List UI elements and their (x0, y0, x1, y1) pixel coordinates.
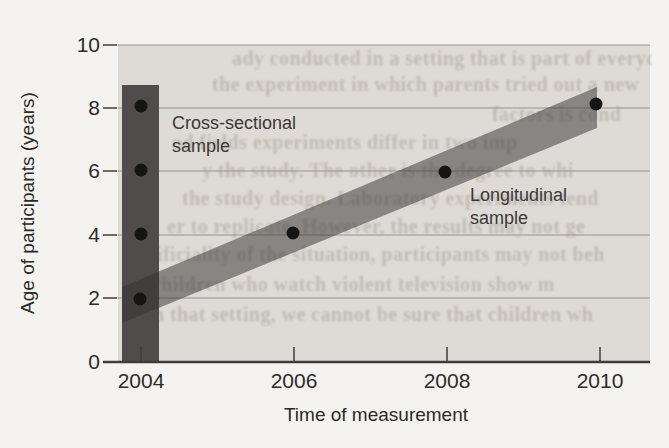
cross-sectional-vs-longitudinal-chart: ady conducted in a setting that is part … (0, 0, 669, 448)
y-tick-label-8: 8 (56, 95, 100, 121)
x-axis-ticks (141, 347, 600, 362)
y-axis-ticks (103, 45, 117, 298)
x-axis-title: Time of measurement (226, 404, 526, 426)
y-tick-label-4: 4 (56, 222, 100, 248)
data-point-2006-age4 (287, 227, 300, 240)
x-tick-label-2006: 2006 (252, 368, 336, 394)
cross-sectional-label-line1: Cross-sectional (172, 112, 296, 135)
data-point-2004-age2 (134, 293, 147, 306)
y-tick-label-6: 6 (56, 158, 100, 184)
data-point-2004-age8 (135, 100, 148, 113)
y-tick-label-2: 2 (56, 285, 100, 311)
x-tick-label-2010: 2010 (558, 368, 642, 394)
y-tick-label-0: 0 (56, 349, 100, 375)
longitudinal-label: Longitudinal sample (470, 184, 567, 230)
longitudinal-label-line1: Longitudinal (470, 184, 567, 207)
x-tick-label-2008: 2008 (405, 368, 489, 394)
data-point-2010-age8 (590, 98, 603, 111)
data-point-2008-age6 (439, 166, 452, 179)
x-tick-label-2004: 2004 (99, 368, 183, 394)
y-axis-title: Age of participants (years) (17, 92, 39, 314)
data-point-2004-age4 (135, 228, 148, 241)
data-point-2004-age6 (135, 164, 148, 177)
cross-sectional-label-line2: sample (172, 135, 296, 158)
longitudinal-label-line2: sample (470, 207, 567, 230)
cross-sectional-label: Cross-sectional sample (172, 112, 296, 158)
y-tick-label-10: 10 (56, 32, 100, 58)
